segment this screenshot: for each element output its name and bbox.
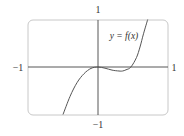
x-min-label: −1 <box>13 62 24 73</box>
x-max-label: 1 <box>172 62 177 73</box>
y-max-label: 1 <box>96 4 101 15</box>
function-label: y = f(x) <box>109 31 139 42</box>
function-graph: 1 −1 −1 1 y = f(x) <box>0 0 184 136</box>
y-min-label: −1 <box>93 119 104 130</box>
